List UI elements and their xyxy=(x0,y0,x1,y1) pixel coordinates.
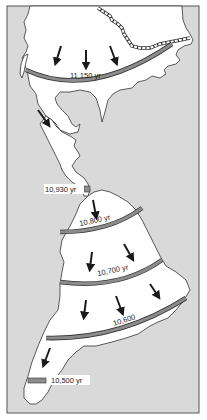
front-10930: 10,930 yr xyxy=(44,184,90,194)
front-label: 11,150 yr xyxy=(70,71,101,80)
front-label: 10,500 yr xyxy=(51,376,83,385)
front-label: 10,930 yr xyxy=(45,185,77,194)
migration-map: 11,150 yr 10,930 yr 10,800 yr 10,700 yr … xyxy=(0,0,207,420)
